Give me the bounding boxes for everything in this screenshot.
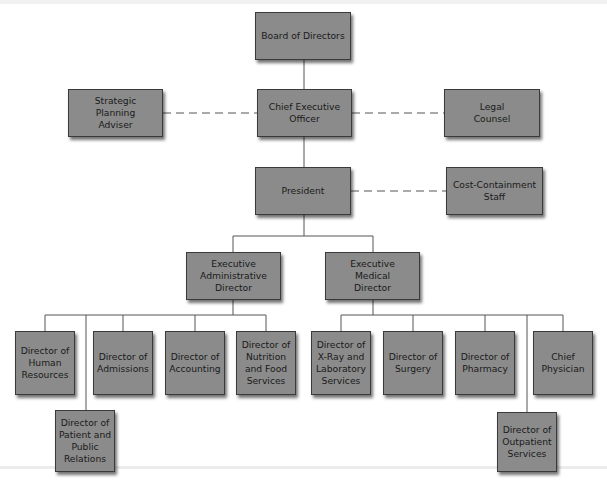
box-label: Director of Pharmacy xyxy=(461,351,510,375)
box-executive-administrative-director: Executive Administrative Director xyxy=(186,252,281,300)
box-label: Legal Counsel xyxy=(474,101,511,125)
box-director-pharmacy: Director of Pharmacy xyxy=(455,331,515,395)
box-label: Chief Executive Officer xyxy=(269,101,340,125)
box-director-admissions: Director of Admissions xyxy=(93,331,153,395)
box-strategic-planning-adviser: Strategic Planning Adviser xyxy=(68,89,163,137)
box-label: Director of Surgery xyxy=(389,351,438,375)
box-executive-medical-director: Executive Medical Director xyxy=(325,252,420,300)
box-director-surgery: Director of Surgery xyxy=(383,331,443,395)
box-label: Executive Medical Director xyxy=(350,258,395,294)
box-label: Board of Directors xyxy=(261,30,344,42)
box-cost-containment-staff: Cost-Containment Staff xyxy=(446,167,543,215)
box-label: Director of Nutrition and Food Services xyxy=(242,339,291,387)
box-label: Director of Outpatient Services xyxy=(502,424,551,460)
box-label: Director of Admissions xyxy=(97,351,149,375)
box-president: President xyxy=(255,167,351,215)
box-board-of-directors: Board of Directors xyxy=(255,12,351,60)
box-label: Cost-Containment Staff xyxy=(453,179,536,203)
box-label: Director of X-Ray and Laboratory Service… xyxy=(316,339,366,387)
box-director-xray-laboratory-services: Director of X-Ray and Laboratory Service… xyxy=(311,331,371,395)
box-director-human-resources: Director of Human Resources xyxy=(15,331,75,395)
box-director-patient-public-relations: Director of Patient and Public Relations xyxy=(55,410,115,472)
box-director-nutrition-food-services: Director of Nutrition and Food Services xyxy=(236,331,296,395)
box-director-outpatient-services: Director of Outpatient Services xyxy=(497,412,557,472)
box-director-accounting: Director of Accounting xyxy=(165,331,225,395)
box-label: Strategic Planning Adviser xyxy=(95,95,137,131)
box-legal-counsel: Legal Counsel xyxy=(444,89,540,137)
box-label: Director of Patient and Public Relations xyxy=(59,417,111,465)
box-chief-physician: Chief Physician xyxy=(533,331,593,395)
box-label: President xyxy=(282,185,325,197)
box-label: Chief Physician xyxy=(541,351,584,375)
box-label: Director of Human Resources xyxy=(21,345,70,381)
box-label: Director of Accounting xyxy=(169,351,220,375)
box-label: Executive Administrative Director xyxy=(200,258,267,294)
box-chief-executive-officer: Chief Executive Officer xyxy=(257,89,352,137)
